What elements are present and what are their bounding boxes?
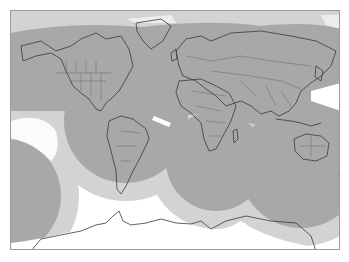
new-zealand-outline <box>339 156 340 176</box>
map-canvas <box>11 11 340 250</box>
world-coverage-map <box>10 10 340 250</box>
